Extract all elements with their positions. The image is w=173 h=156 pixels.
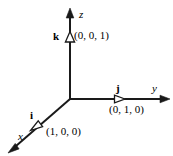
z-axis-label: z — [79, 9, 83, 20]
i-coordinate-label: (1, 0, 0) — [46, 126, 81, 137]
k-coordinate-label: (0, 0, 1) — [74, 30, 109, 41]
coordinate-axes-figure: z y x k j i (0, 0, 1) (0, 1, 0) (1, 0, 0… — [0, 0, 173, 156]
j-coordinate-label: (0, 1, 0) — [109, 104, 144, 115]
x-axis-line — [16, 99, 70, 146]
k-vector-label: k — [53, 31, 59, 42]
y-axis-label: y — [152, 83, 157, 94]
i-vector-arrowhead — [31, 121, 43, 131]
i-vector-label: i — [30, 110, 33, 121]
x-axis-label: x — [18, 131, 23, 142]
y-axis-arrowhead — [160, 95, 170, 103]
axes-drawing — [0, 0, 173, 156]
j-vector-arrowhead — [115, 95, 126, 103]
z-axis-arrowhead — [66, 8, 74, 18]
j-vector-label: j — [116, 83, 120, 94]
